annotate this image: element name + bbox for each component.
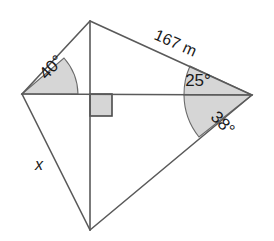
side-length-label-167m: 167 m	[152, 26, 200, 60]
right-angle-marker	[90, 94, 112, 116]
side-length-label-x: x	[34, 156, 44, 173]
horizontal-diagonal	[22, 94, 252, 95]
geometry-figure: 40° 25° 38° 167 m x	[0, 0, 274, 241]
geometry-diagram-canvas: 40° 25° 38° 167 m x	[0, 0, 274, 241]
edge-left-to-bottom	[22, 94, 90, 230]
angle-label-25: 25°	[185, 71, 211, 90]
